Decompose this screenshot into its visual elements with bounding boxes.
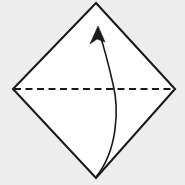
origami-diagram-svg	[0, 0, 185, 185]
origami-diagram-figure	[0, 0, 185, 185]
